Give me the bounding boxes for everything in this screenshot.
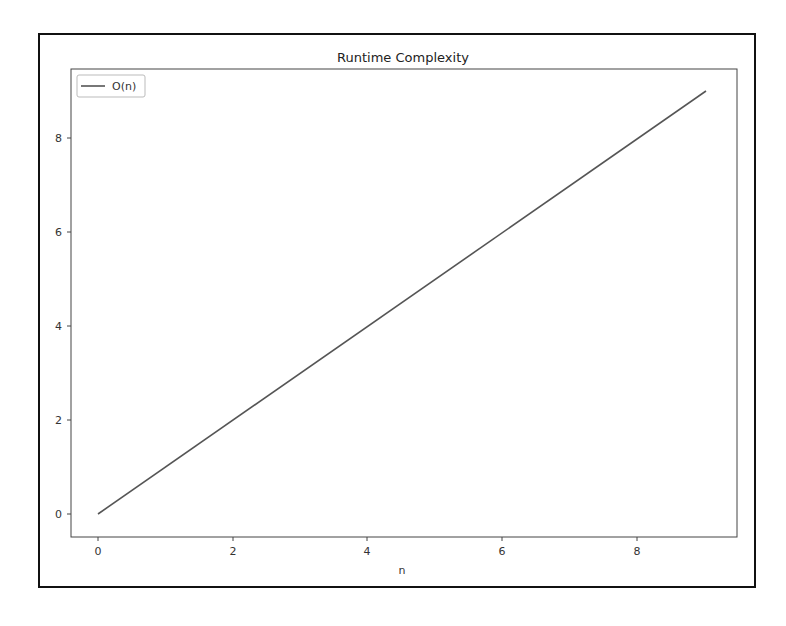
x-axis: 0 2 4 6 8 n xyxy=(95,537,641,577)
y-tick-label: 2 xyxy=(55,414,62,427)
legend-label: O(n) xyxy=(112,80,136,93)
y-axis: 0 2 4 6 8 xyxy=(55,132,71,521)
y-tick-label: 0 xyxy=(55,508,62,521)
y-tick-label: 4 xyxy=(55,320,62,333)
x-axis-label: n xyxy=(399,564,406,577)
x-tick-label: 6 xyxy=(499,545,506,558)
x-tick-label: 8 xyxy=(634,545,641,558)
x-tick-label: 0 xyxy=(95,545,102,558)
chart-title: Runtime Complexity xyxy=(337,50,469,65)
y-tick-label: 6 xyxy=(55,226,62,239)
legend: O(n) xyxy=(77,75,145,97)
x-tick-label: 2 xyxy=(230,545,237,558)
series-line-o-n xyxy=(98,91,706,514)
x-tick-label: 4 xyxy=(364,545,371,558)
chart: Runtime Complexity 0 2 4 6 8 n 0 2 4 6 8… xyxy=(0,0,786,626)
y-tick-label: 8 xyxy=(55,132,62,145)
